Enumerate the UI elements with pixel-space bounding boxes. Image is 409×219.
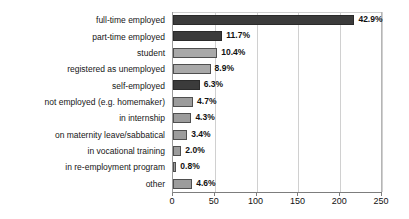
category-label: in re-employment program xyxy=(65,162,165,172)
x-axis-tick-label: 200 xyxy=(332,196,347,206)
bar xyxy=(173,179,192,189)
bar-value-label: 3.4% xyxy=(191,129,210,139)
x-axis-tick-label: 150 xyxy=(290,196,305,206)
bar-row: 4.7% xyxy=(173,94,382,110)
bar xyxy=(173,80,200,90)
x-axis-tick-label: 0 xyxy=(169,196,174,206)
category-label-row: student xyxy=(0,45,169,61)
bar-value-label: 0.8% xyxy=(180,161,199,171)
bar-row: 6.3% xyxy=(173,77,382,93)
x-axis-tick-label: 50 xyxy=(209,196,219,206)
category-label: registered as unemployed xyxy=(67,64,165,74)
bar-row: 4.6% xyxy=(173,176,382,192)
bar-row: 10.4% xyxy=(173,45,382,61)
bar-value-label: 6.3% xyxy=(204,79,223,89)
category-label: self-employed xyxy=(112,81,165,91)
bar-value-label: 4.6% xyxy=(196,178,215,188)
bar-row: 3.4% xyxy=(173,127,382,143)
category-label: not employed (e.g. homemaker) xyxy=(45,97,165,107)
category-label: in vocational training xyxy=(88,146,166,156)
bar-value-label: 4.3% xyxy=(195,112,214,122)
category-label-row: in re-employment program xyxy=(0,159,169,175)
bar-chart: full-time employed part-time employed st… xyxy=(0,0,409,219)
category-label: full-time employed xyxy=(96,15,165,25)
category-label-row: not employed (e.g. homemaker) xyxy=(0,94,169,110)
bar-row: 8.9% xyxy=(173,61,382,77)
bar-value-label: 2.0% xyxy=(185,145,204,155)
plot-area: 42.9%11.7%10.4%8.9%6.3%4.7%4.3%3.4%2.0%0… xyxy=(172,12,382,193)
category-label-row: part-time employed xyxy=(0,28,169,44)
category-label: on maternity leave/sabbatical xyxy=(55,130,165,140)
bar xyxy=(173,130,187,140)
x-axis-tick-label: 250 xyxy=(373,196,388,206)
bar-value-label: 11.7% xyxy=(226,30,250,40)
bar xyxy=(173,48,217,58)
bar-row: 42.9% xyxy=(173,12,382,28)
category-axis-labels: full-time employed part-time employed st… xyxy=(0,12,169,192)
bar-row: 0.8% xyxy=(173,159,382,175)
bar xyxy=(173,97,193,107)
bar-value-label: 10.4% xyxy=(221,47,245,57)
bar xyxy=(173,146,181,156)
category-label: in internship xyxy=(119,113,165,123)
category-label: student xyxy=(137,48,165,58)
gridline xyxy=(382,12,383,192)
bar xyxy=(173,15,354,25)
bar-row: 4.3% xyxy=(173,110,382,126)
category-label-row: self-employed xyxy=(0,77,169,93)
category-label-row: in vocational training xyxy=(0,143,169,159)
x-axis-tick-label: 100 xyxy=(248,196,263,206)
bar-value-label: 8.9% xyxy=(215,63,234,73)
bar-value-label: 4.7% xyxy=(197,96,216,106)
category-label-row: in internship xyxy=(0,110,169,126)
category-label-row: full-time employed xyxy=(0,12,169,28)
category-label: part-time employed xyxy=(92,32,165,42)
bar-row: 2.0% xyxy=(173,143,382,159)
category-label-row: other xyxy=(0,176,169,192)
bar xyxy=(173,31,222,41)
bar xyxy=(173,64,211,74)
category-label: other xyxy=(146,179,165,189)
bar-value-label: 42.9% xyxy=(358,14,382,24)
bar xyxy=(173,162,176,172)
bar xyxy=(173,113,191,123)
category-label-row: on maternity leave/sabbatical xyxy=(0,127,169,143)
category-label-row: registered as unemployed xyxy=(0,61,169,77)
bar-row: 11.7% xyxy=(173,28,382,44)
